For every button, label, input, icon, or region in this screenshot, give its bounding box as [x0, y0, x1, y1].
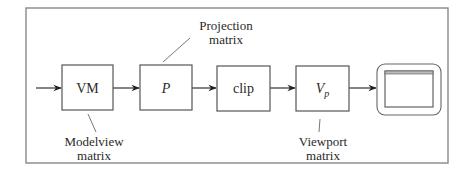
stage-clip: clip	[217, 66, 270, 111]
projection-annotation-line1: Projection	[199, 18, 253, 33]
monitor-icon	[377, 64, 441, 115]
modelview-annotation-line2: matrix	[77, 148, 111, 163]
stage-vm: VM	[62, 65, 113, 110]
viewport-annotation-line1: Viewport	[299, 134, 348, 149]
stage-projection: P	[140, 65, 192, 110]
stage-viewport: Vp	[296, 66, 349, 111]
modelview-leader-line	[88, 114, 96, 132]
viewport-annotation-line2: matrix	[306, 148, 340, 163]
stage-p-label: P	[161, 81, 171, 96]
projection-leader-line	[163, 38, 190, 62]
stage-vm-label: VM	[76, 81, 99, 96]
modelview-annotation-line1: Modelview	[64, 134, 124, 149]
pipeline-diagram: VM P clip Vp Projection matrix Modelview…	[0, 0, 466, 174]
projection-annotation-line2: matrix	[209, 32, 243, 47]
stage-clip-label: clip	[233, 81, 254, 96]
viewport-leader-line	[319, 119, 320, 132]
